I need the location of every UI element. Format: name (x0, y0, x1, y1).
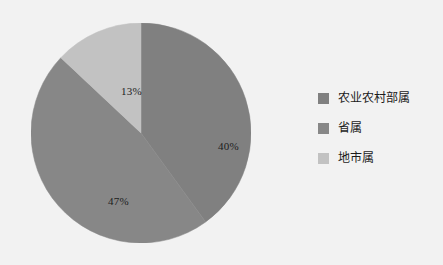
pie-slice-label-prefecture-city: 13% (121, 85, 142, 97)
pie-chart-figure: 40% 47% 13% 农业农村部属 省属 地市属 (0, 0, 443, 265)
legend-swatch-icon (318, 153, 329, 164)
legend-swatch-icon (318, 123, 329, 134)
legend-item-label: 农业农村部属 (338, 92, 410, 105)
pie-slice-label-agriculture-ministry: 40% (218, 140, 239, 152)
legend-swatch-icon (318, 93, 329, 104)
legend-item-label: 省属 (338, 122, 362, 135)
pie-plot-area: 40% 47% 13% (31, 23, 251, 243)
chart-legend: 农业农村部属 省属 地市属 (318, 91, 438, 165)
legend-item-label: 地市属 (338, 152, 374, 165)
pie-slice-label-provincial: 47% (108, 195, 129, 207)
legend-item-provincial[interactable]: 省属 (318, 121, 438, 135)
legend-item-agriculture-ministry[interactable]: 农业农村部属 (318, 91, 438, 105)
legend-item-prefecture-city[interactable]: 地市属 (318, 151, 438, 165)
pie-svg (31, 23, 251, 243)
